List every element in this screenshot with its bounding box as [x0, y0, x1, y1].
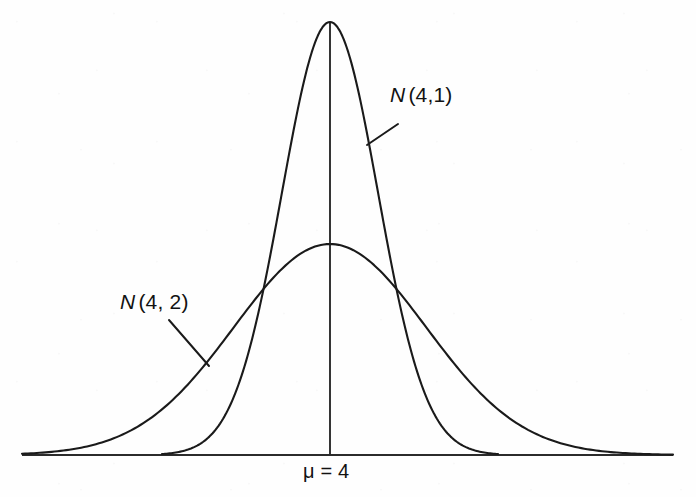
- curve-label-n-4-2: N(4, 2): [120, 291, 189, 312]
- normal-distribution-figure: N(4,1) N(4, 2) μ = 4: [0, 0, 696, 497]
- curve-label-n-4-2-symbol: N: [120, 290, 138, 313]
- curve-label-n-4-1-args: (4,1): [408, 83, 452, 106]
- leader-line-n-4-2: [169, 320, 209, 366]
- leader-line-n-4-1: [367, 124, 398, 145]
- curve-label-n-4-1-symbol: N: [390, 83, 408, 106]
- curve-label-n-4-2-args: (4, 2): [138, 290, 188, 313]
- mean-axis-label: μ = 4: [303, 461, 349, 481]
- curve-n-4-2: [22, 244, 673, 455]
- curve-label-n-4-1: N(4,1): [390, 84, 453, 105]
- distribution-plot: [0, 0, 696, 497]
